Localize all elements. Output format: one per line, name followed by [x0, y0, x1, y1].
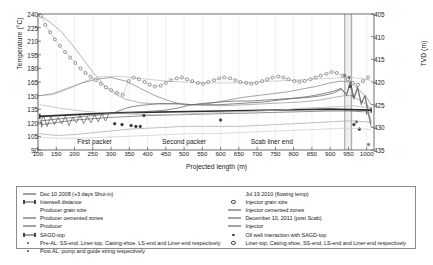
data-point [348, 76, 351, 79]
data-point [351, 81, 354, 84]
y-tick-label: 195 [27, 51, 38, 58]
legend-marker [22, 247, 37, 255]
data-point [53, 38, 56, 41]
legend-item[interactable]: Producer [22, 222, 220, 230]
data-point [266, 78, 269, 81]
y-axis-title: Temperature (°C) [16, 0, 23, 99]
legend-item[interactable]: Pre-AL: SS-end, Liner-top, Casing-shoe, … [22, 239, 220, 247]
data-point [153, 85, 156, 88]
data-point [223, 76, 226, 79]
legend-marker [227, 239, 242, 247]
data-point [110, 89, 113, 92]
data-point [196, 81, 199, 84]
y2-tick-label: 420 [374, 79, 385, 86]
data-point [39, 14, 42, 17]
data-point [99, 82, 102, 85]
legend-marker [227, 198, 242, 206]
data-point [121, 93, 124, 96]
data-point [355, 121, 358, 124]
legend-item-label: Injector [245, 222, 263, 230]
data-point [44, 23, 47, 26]
y-tick-label: 180 [27, 65, 38, 72]
legend-item[interactable]: Producer cemented zones [22, 214, 220, 222]
legend-marker [227, 214, 242, 222]
data-point [164, 81, 167, 84]
data-point [356, 83, 359, 86]
series-jul-19-2010-flowing-temp [40, 77, 371, 104]
data-point [169, 79, 172, 82]
x-axis-tick-labels: 1001502002503003504004505005506006507007… [0, 150, 433, 164]
data-point [343, 74, 346, 77]
data-point [218, 77, 221, 80]
x-tick-label: 500 [179, 150, 189, 157]
data-point [367, 76, 370, 79]
data-point [207, 81, 210, 84]
y2-tick-label: 430 [374, 124, 385, 131]
x-tick-label: 850 [307, 150, 317, 157]
legend-item[interactable]: Injector grain size [227, 198, 413, 206]
y-tick-label: 150 [27, 92, 38, 99]
legend-column-right: Jul 19 2010 (flowing temp)Injector grain… [222, 190, 415, 248]
legend-item[interactable]: Post AL: pump and guide string respectiv… [22, 247, 220, 255]
chart-figure: 90105120135150165180195210225240 4054104… [0, 0, 433, 265]
data-point [250, 82, 253, 85]
data-point [137, 78, 140, 81]
legend-item[interactable]: Interwell distance [22, 198, 220, 206]
legend-column-left: Dec 10 2008 (+3 days Shut-in)Interwell d… [17, 190, 222, 248]
data-point [358, 128, 361, 131]
x-tick-label: 900 [325, 150, 335, 157]
x-tick-label: 300 [106, 150, 116, 157]
legend-item[interactable]: Oil well interaction with SAGD-top [227, 230, 413, 238]
legend-item[interactable]: Jul 19 2010 (flowing temp) [227, 190, 413, 198]
data-point [104, 86, 107, 89]
data-point [219, 119, 222, 122]
data-point [261, 80, 264, 83]
x-tick-label: 400 [142, 150, 152, 157]
y-tick-label: 105 [27, 133, 38, 140]
x-tick-label: 200 [69, 150, 79, 157]
x-tick-label: 250 [88, 150, 98, 157]
legend-marker [22, 190, 37, 198]
data-point [239, 81, 242, 84]
legend-item[interactable]: Liner-top, Casing-shoe, SS-end, LS-end a… [227, 239, 413, 247]
data-point [213, 79, 216, 82]
legend-marker [227, 231, 242, 239]
y2-tick-label: 410 [374, 33, 385, 40]
data-point [191, 80, 194, 83]
y2-tick-label: 405 [374, 11, 385, 18]
data-point [229, 77, 232, 80]
data-point [282, 76, 285, 79]
data-point [362, 80, 365, 83]
legend-marker [227, 206, 242, 214]
data-point [175, 77, 178, 80]
data-point [319, 74, 322, 77]
data-point [148, 83, 151, 86]
legend-item[interactable]: December 10, 2011 (post Scab) [227, 214, 413, 222]
legend-item[interactable]: Producer grain size [22, 206, 220, 214]
data-point [245, 81, 248, 84]
legend-item[interactable]: Dec 10 2008 (+3 days Shut-in) [22, 190, 220, 198]
data-point [287, 78, 290, 81]
legend-item-label: Post AL: pump and guide string respectiv… [40, 247, 145, 255]
legend-item[interactable]: SAGD-top [22, 230, 220, 238]
data-point [271, 76, 274, 79]
y2-tick-label: 415 [374, 56, 385, 63]
data-point [353, 123, 356, 126]
x-tick-label: 550 [197, 150, 207, 157]
x-tick-label: 950 [343, 150, 353, 157]
legend-item-label: SAGD-top [40, 231, 65, 239]
legend-item[interactable]: Injector [227, 222, 413, 230]
legend-marker [22, 214, 37, 222]
x-tick-label: 750 [270, 150, 280, 157]
data-point [84, 71, 87, 74]
x-tick-label: 650 [234, 150, 244, 157]
y-tick-label: 225 [27, 24, 38, 31]
data-point [132, 76, 135, 79]
data-point [49, 31, 52, 34]
legend-item[interactable]: Injector cemented zones [227, 206, 413, 214]
legend-marker [22, 231, 37, 239]
data-point [367, 143, 370, 146]
data-point [113, 122, 116, 125]
series-line [40, 77, 371, 104]
legend-item-label: December 10, 2011 (post Scab) [245, 214, 321, 222]
